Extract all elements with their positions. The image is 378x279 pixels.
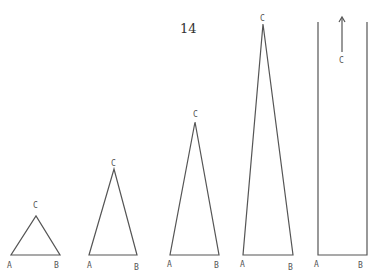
svg-text:B: B bbox=[288, 263, 293, 272]
parallel-limit-figure: C A B bbox=[314, 17, 367, 270]
triangle-3: C A B bbox=[167, 110, 219, 270]
svg-text:C: C bbox=[33, 201, 38, 210]
svg-text:B: B bbox=[214, 261, 219, 270]
svg-text:B: B bbox=[54, 261, 59, 270]
svg-text:C: C bbox=[339, 56, 344, 65]
svg-text:C: C bbox=[260, 14, 265, 23]
svg-text:A: A bbox=[7, 261, 12, 270]
svg-text:B: B bbox=[358, 261, 363, 270]
svg-text:A: A bbox=[87, 261, 92, 270]
triangle-4: C A B bbox=[240, 14, 293, 272]
triangle-1: C A B bbox=[7, 201, 60, 270]
svg-text:B: B bbox=[134, 263, 139, 272]
page-number: 14 bbox=[180, 21, 197, 36]
svg-text:C: C bbox=[111, 159, 116, 168]
svg-text:A: A bbox=[314, 260, 319, 269]
triangle-2: C A B bbox=[87, 159, 139, 272]
svg-text:C: C bbox=[193, 110, 198, 119]
svg-text:A: A bbox=[240, 260, 245, 269]
svg-text:A: A bbox=[167, 260, 172, 269]
diagram-canvas: 14 C A B C A B C A B C A B C A B bbox=[0, 0, 378, 279]
